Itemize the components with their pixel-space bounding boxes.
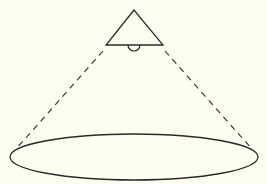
background: [0, 0, 267, 184]
lamp-light-cone-diagram: [0, 0, 267, 184]
